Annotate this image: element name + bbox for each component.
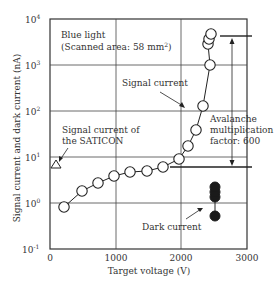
signal-point xyxy=(93,178,103,188)
signal-current-label: Signal current xyxy=(122,78,188,88)
ytick-1e0: 100 xyxy=(25,197,40,209)
signal-point xyxy=(109,171,119,181)
signal-point xyxy=(174,154,184,164)
dark-current-pointer xyxy=(186,209,201,219)
signal-current-series xyxy=(59,29,216,212)
scanned-area-label: (Scanned area: 58 mm2) xyxy=(61,41,172,52)
y-axis: 104 103 102 101 100 10-1 Signal current … xyxy=(12,13,40,255)
x-axis-title: Target voltage (V) xyxy=(108,266,190,276)
ytick-1e2: 102 xyxy=(25,105,40,117)
dark-point xyxy=(210,211,220,221)
xtick-3000: 3000 xyxy=(236,253,259,263)
ytick-1e-1: 10-1 xyxy=(22,243,39,255)
ytick-1e3: 103 xyxy=(25,59,40,71)
signal-point xyxy=(142,166,152,176)
avalanche-label-line1: Avalanche xyxy=(209,114,257,124)
arrow-icon xyxy=(179,102,185,108)
avalanche-indicator xyxy=(170,36,252,167)
y-axis-title: Signal current and dark current (nA) xyxy=(12,54,22,223)
avalanche-label-line3: factor: 600 xyxy=(210,136,260,146)
saticon-label-line2: the SATICON xyxy=(62,136,124,146)
signal-current-line xyxy=(64,33,211,207)
signal-point xyxy=(158,162,168,172)
xtick-2000: 2000 xyxy=(170,253,193,263)
saticon-label-line1: Signal current of xyxy=(62,125,140,135)
signal-point xyxy=(77,186,87,196)
signal-point xyxy=(183,141,193,151)
x-axis: 0 1000 2000 3000 Target voltage (V) xyxy=(47,253,259,276)
ytick-1e1: 101 xyxy=(25,151,40,163)
signal-point xyxy=(191,125,201,135)
blue-light-label: Blue light xyxy=(61,30,106,40)
signal-point xyxy=(59,202,69,212)
signal-point xyxy=(206,29,216,39)
dark-current-series xyxy=(210,182,220,221)
arrow-up-icon xyxy=(230,38,235,44)
signal-point xyxy=(198,101,208,111)
signal-point xyxy=(205,60,215,70)
annotations: Blue light (Scanned area: 58 mm2) Signal… xyxy=(59,30,274,232)
dark-current-label: Dark current xyxy=(142,222,202,232)
avalanche-label-line2: multiplication xyxy=(210,125,274,135)
ytick-1e4: 104 xyxy=(25,13,40,25)
xtick-1000: 1000 xyxy=(105,253,128,263)
xtick-0: 0 xyxy=(47,253,53,263)
dark-point xyxy=(210,182,220,192)
chart-figure: 104 103 102 101 100 10-1 Signal current … xyxy=(0,0,278,290)
signal-current-pointer xyxy=(160,92,183,106)
signal-point xyxy=(125,167,135,177)
arrow-down-icon xyxy=(230,160,235,166)
